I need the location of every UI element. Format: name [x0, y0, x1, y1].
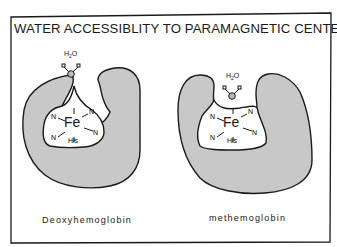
- caption-methemoglobin: methemoglobin: [209, 213, 286, 223]
- ligand-n-top-left: N: [210, 113, 215, 120]
- ligand-n-bottom-right: N: [93, 129, 98, 136]
- metal-label: Fe: [223, 114, 239, 130]
- axial-ligand-label: His: [227, 137, 237, 144]
- caption-deoxyhemoglobin: Deoxyhemoglobin: [42, 215, 132, 225]
- diagram-canvas: [0, 0, 337, 247]
- ligand-n-top-right: N: [89, 108, 94, 115]
- protein-deoxyhemoglobin: [23, 68, 140, 188]
- ligand-n-bottom-right: N: [252, 129, 257, 136]
- metal-label: Fe: [64, 114, 80, 130]
- ligand-n-bottom-left: N: [210, 134, 215, 141]
- protein-methemoglobin: [178, 74, 312, 194]
- ligand-n-top-right: N: [248, 108, 253, 115]
- diagram-title: WATER ACCESSIBLITY TO PARAMAGNETIC CENTE…: [14, 21, 330, 36]
- ligand-n-top-left: N: [51, 113, 56, 120]
- water-label: H2O: [226, 72, 239, 81]
- axial-ligand-label: His: [68, 137, 78, 144]
- ligand-n-bottom-left: N: [51, 134, 56, 141]
- water-label: H2O: [64, 50, 77, 59]
- water-molecule-right: [223, 86, 241, 99]
